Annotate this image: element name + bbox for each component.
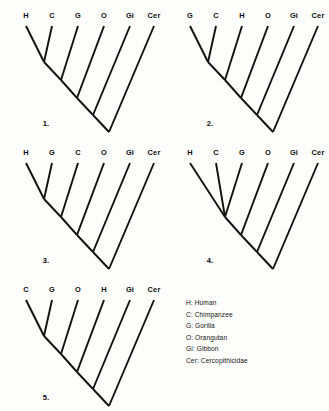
branch-internal-3: [77, 235, 93, 252]
branch-internal-4: [257, 115, 273, 132]
tip-label-G: G: [187, 11, 193, 20]
tip-label-G: G: [49, 148, 55, 157]
branch-internal-1: [44, 336, 61, 354]
legend-entry: Cer: Cercopithicidae: [186, 355, 316, 367]
legend-entry: G: Gorilla: [186, 320, 316, 332]
cladogram-number: 1.: [43, 119, 49, 128]
tip-label-G: G: [239, 148, 245, 157]
cladogram-3: HGCOGiCer3.: [4, 141, 164, 277]
tip-label-O: O: [75, 285, 81, 294]
legend-entry: C: Chimpanzee: [186, 309, 316, 321]
tip-label-Cer: Cer: [312, 148, 325, 157]
cladogram-graphic: CGOHGiCer5.: [4, 278, 164, 411]
tip-label-C: C: [213, 11, 219, 20]
branch-internal-1: [44, 199, 61, 217]
branch-internal-2: [225, 80, 241, 98]
cladogram-graphic: HCGOGiCer4.: [168, 141, 328, 277]
figure-canvas: HCGOGiCer1.GCHOGiCer2.HGCOGiCer3.HCGOGiC…: [0, 0, 329, 411]
branch-internal-4: [257, 252, 273, 269]
branch-tip-Cer: [109, 26, 154, 132]
branch-tip-G: [190, 26, 208, 62]
branch-tip-Cer: [109, 163, 154, 269]
branch-internal-3: [241, 98, 257, 115]
branch-internal-2: [61, 217, 77, 235]
legend-entry: H: Human: [186, 297, 316, 309]
branch-internal-4: [93, 115, 109, 132]
cladogram-graphic: HCGOGiCer1.: [4, 4, 164, 140]
branch-internal-3: [77, 372, 93, 389]
branch-internal-2: [61, 80, 77, 98]
branch-tip-O: [77, 163, 104, 235]
cladogram-graphic: HGCOGiCer3.: [4, 141, 164, 277]
tip-label-C: C: [75, 148, 81, 157]
branch-tip-O: [241, 26, 268, 98]
branch-internal-1: [44, 62, 61, 80]
branch-tip-Cer: [109, 300, 154, 406]
branch-tip-Cer: [273, 26, 318, 132]
branch-internal-2: [225, 217, 241, 235]
tip-label-Cer: Cer: [148, 148, 161, 157]
tip-label-C: C: [49, 11, 55, 20]
tip-label-Gi: Gi: [126, 11, 134, 20]
tip-label-H: H: [23, 11, 29, 20]
branch-internal-3: [241, 235, 257, 252]
branch-tip-H: [26, 26, 44, 62]
branch-tip-H: [26, 163, 44, 199]
branch-internal-4: [93, 252, 109, 269]
tip-label-C: C: [23, 285, 29, 294]
branch-tip-G: [225, 163, 242, 217]
branch-internal-3: [77, 98, 93, 115]
tip-label-Cer: Cer: [312, 11, 325, 20]
tip-label-Gi: Gi: [290, 148, 298, 157]
tip-label-Cer: Cer: [148, 285, 161, 294]
branch-tip-H: [225, 26, 242, 80]
branch-tip-G: [44, 163, 52, 199]
branch-tip-G: [61, 26, 78, 80]
branch-internal-4: [93, 389, 109, 406]
tip-label-O: O: [101, 148, 107, 157]
branch-tip-O: [241, 163, 268, 235]
tip-label-C: C: [213, 148, 219, 157]
branch-internal-1: [208, 62, 225, 80]
branch-tip-O: [61, 300, 78, 354]
cladogram-1: HCGOGiCer1.: [4, 4, 164, 140]
branch-tip-C: [44, 26, 52, 62]
branch-internal-2: [61, 354, 77, 372]
cladogram-number: 4.: [207, 256, 213, 265]
branch-tip-C: [208, 26, 216, 62]
tip-label-H: H: [23, 148, 29, 157]
branch-tip-O: [77, 26, 104, 98]
branch-tip-H: [77, 300, 104, 372]
tip-label-G: G: [75, 11, 81, 20]
cladogram-2: GCHOGiCer2.: [168, 4, 328, 140]
legend-entry: O: Orangutan: [186, 332, 316, 344]
branch-tip-Cer: [273, 163, 318, 269]
cladogram-number: 3.: [43, 256, 49, 265]
tip-label-Gi: Gi: [126, 285, 134, 294]
tip-label-O: O: [265, 11, 271, 20]
tip-label-H: H: [239, 11, 245, 20]
branch-tip-C: [61, 163, 78, 217]
taxon-abbreviation-legend: H: HumanC: ChimpanzeeG: GorillaO: Orangu…: [186, 297, 316, 367]
tip-label-Gi: Gi: [290, 11, 298, 20]
cladogram-number: 2.: [207, 119, 213, 128]
legend-entry: Gi: Gibbon: [186, 343, 316, 355]
tip-label-G: G: [49, 285, 55, 294]
cladogram-4: HCGOGiCer4.: [168, 141, 328, 277]
tip-label-Cer: Cer: [148, 11, 161, 20]
cladogram-5: CGOHGiCer5.: [4, 278, 164, 411]
cladogram-number: 5.: [43, 393, 49, 402]
branch-tip-C: [26, 300, 44, 336]
tip-label-O: O: [265, 148, 271, 157]
cladogram-graphic: GCHOGiCer2.: [168, 4, 328, 140]
tip-label-H: H: [101, 285, 107, 294]
tip-label-Gi: Gi: [126, 148, 134, 157]
branch-tip-G: [44, 300, 52, 336]
tip-label-H: H: [187, 148, 193, 157]
tip-label-O: O: [101, 11, 107, 20]
